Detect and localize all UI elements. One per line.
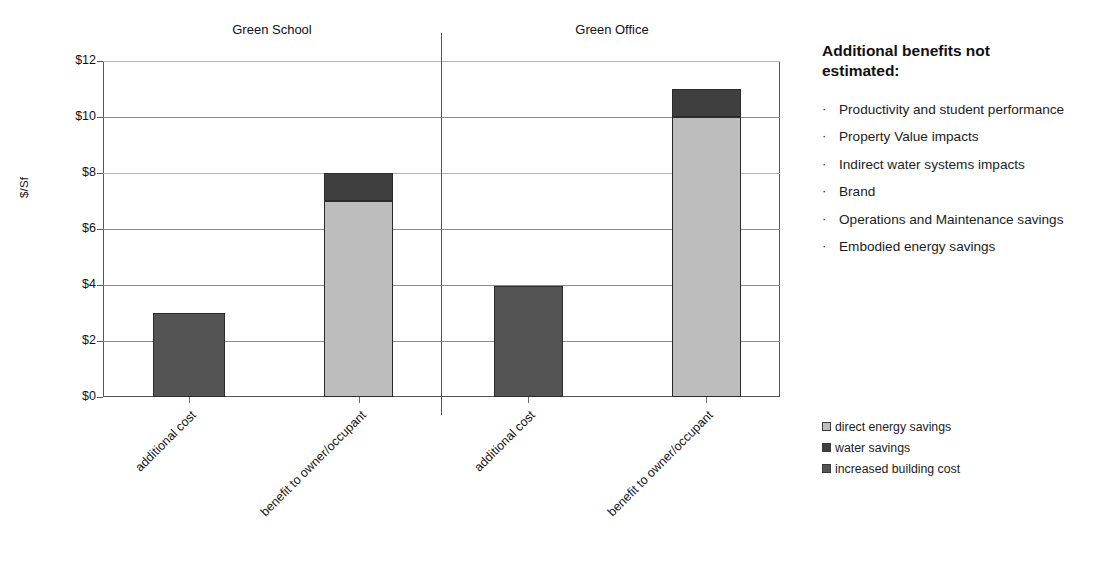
y-tick-mark [97, 61, 103, 62]
y-tick-mark [97, 117, 103, 118]
list-item-label: Operations and Maintenance savings [839, 211, 1084, 228]
x-tick-label: additional cost [0, 408, 199, 566]
bullet-icon: · [822, 101, 839, 118]
y-tick-label: $12 [52, 54, 96, 67]
legend-label: increased building cost [835, 462, 960, 476]
benefits-list: ·Productivity and student performance·Pr… [822, 101, 1084, 265]
side-panel: Additional benefits not estimated: ·Prod… [822, 0, 1094, 566]
legend-swatch-icon [822, 422, 831, 431]
bullet-icon: · [822, 156, 839, 173]
bar [324, 173, 393, 397]
x-tick-mark [189, 397, 190, 403]
list-item-label: Indirect water systems impacts [839, 156, 1084, 173]
y-tick: $0 [48, 397, 96, 398]
group-divider [441, 33, 442, 415]
y-tick-label: $0 [52, 390, 96, 403]
list-item-label: Brand [839, 183, 1084, 200]
bullet-icon: · [822, 128, 839, 145]
side-panel-heading: Additional benefits not estimated: [822, 41, 1052, 82]
legend-item: direct energy savings [822, 418, 960, 435]
group-title-green-school: Green School [232, 22, 312, 37]
chart-legend: direct energy savingswater savingsincrea… [822, 418, 960, 481]
y-tick: $2 [48, 341, 96, 342]
legend-item: increased building cost [822, 460, 960, 477]
y-tick-label: $2 [52, 334, 96, 347]
y-tick-label: $8 [52, 166, 96, 179]
bar-segment [324, 173, 393, 201]
bullet-icon: · [822, 211, 839, 228]
list-item: ·Brand [822, 183, 1084, 200]
list-item-label: Embodied energy savings [839, 238, 1084, 255]
group-title-green-office: Green Office [575, 22, 648, 37]
y-tick-label: $10 [52, 110, 96, 123]
chart-container: $/Sf $0$2$4$6$8$10$12 Green SchoolGreen … [0, 0, 800, 566]
y-tick-mark [97, 341, 103, 342]
y-tick: $8 [48, 173, 96, 174]
bar [494, 286, 563, 397]
bar-segment [672, 117, 741, 397]
list-item-label: Property Value impacts [839, 128, 1084, 145]
x-tick-mark [359, 397, 360, 403]
bullet-icon: · [822, 183, 839, 200]
legend-item: water savings [822, 439, 960, 456]
y-tick: $12 [48, 61, 96, 62]
bar [153, 313, 225, 397]
legend-label: water savings [835, 441, 910, 455]
y-axis-title: $/Sf [18, 177, 30, 198]
bar-segment [672, 89, 741, 117]
list-item: ·Productivity and student performance [822, 101, 1084, 118]
x-tick-mark [706, 397, 707, 403]
list-item: ·Property Value impacts [822, 128, 1084, 145]
y-tick-mark [97, 229, 103, 230]
y-tick-mark [97, 285, 103, 286]
bullet-icon: · [822, 238, 839, 255]
list-item-label: Productivity and student performance [839, 101, 1084, 118]
bar-segment [494, 286, 563, 397]
legend-swatch-icon [822, 464, 831, 473]
list-item: ·Indirect water systems impacts [822, 156, 1084, 173]
legend-label: direct energy savings [835, 420, 951, 434]
y-tick-mark [97, 397, 103, 398]
list-item: ·Embodied energy savings [822, 238, 1084, 255]
list-item: ·Operations and Maintenance savings [822, 211, 1084, 228]
legend-swatch-icon [822, 443, 831, 452]
y-tick: $10 [48, 117, 96, 118]
y-tick-mark [97, 173, 103, 174]
y-tick: $6 [48, 229, 96, 230]
bar [672, 89, 741, 397]
x-tick-mark [528, 397, 529, 403]
y-tick-label: $6 [52, 222, 96, 235]
y-tick-label: $4 [52, 278, 96, 291]
y-tick: $4 [48, 285, 96, 286]
bar-segment [324, 201, 393, 397]
bar-segment [153, 313, 225, 397]
